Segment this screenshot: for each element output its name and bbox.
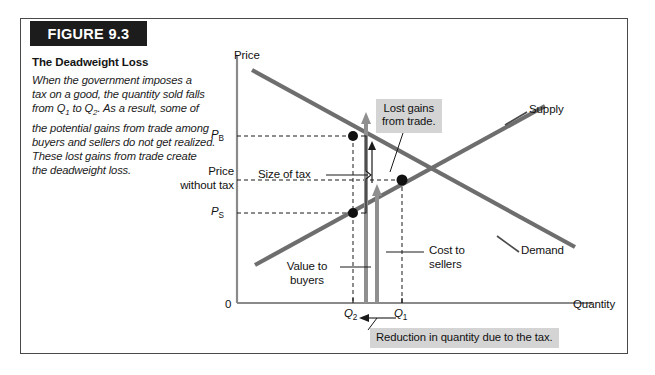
chart-svg: [0, 0, 655, 375]
supply-demand-chart: Price Quantity 0 PB PS Price without tax…: [0, 0, 655, 375]
dwl-arrow-left-head: [361, 112, 371, 124]
value-to-buyers-label-line1: Value to: [276, 260, 338, 272]
size-of-tax-label: Size of tax: [258, 168, 311, 180]
pb-tick-label: PB: [211, 128, 224, 143]
demand-curve-label: Demand: [521, 244, 564, 256]
supply-curve-label: Supply: [529, 103, 564, 115]
lost-gains-callout: Lost gains from trade.: [376, 99, 442, 133]
figure-screenshot: FIGURE 9.3 The Deadweight Loss When the …: [0, 0, 655, 375]
y-axis-label: Price: [234, 49, 260, 61]
dwl-arrow-right-head: [372, 184, 382, 196]
cost-to-sellers-label-line2: sellers: [429, 258, 462, 270]
lost-gains-line-2: from trade.: [382, 115, 436, 127]
x-axis-label: Quantity: [573, 298, 615, 310]
origin-label: 0: [225, 298, 231, 310]
cost-to-sellers-label-line1: Cost to: [429, 244, 465, 256]
point-equilibrium-marker: [397, 175, 408, 186]
demand-curve: [252, 70, 575, 247]
reduction-quantity-callout: Reduction in quantity due to the tax.: [370, 328, 559, 348]
q1-tick-label: Q1: [394, 307, 407, 322]
dwl-thin-arrow-head: [368, 141, 376, 150]
q2-tick-label: Q2: [344, 307, 357, 322]
point-ps-marker: [348, 208, 358, 218]
demand-label-leader: [497, 236, 519, 252]
value-to-buyers-label-line2: buyers: [276, 274, 338, 286]
price-without-tax-label-line2: without tax: [160, 179, 234, 191]
ps-tick-label: PS: [211, 205, 224, 220]
reduction-arrow-head: [359, 314, 369, 322]
lost-gains-line-1: Lost gains: [384, 102, 435, 114]
point-pb-marker: [348, 131, 358, 141]
price-without-tax-label-line1: Price: [180, 165, 234, 177]
